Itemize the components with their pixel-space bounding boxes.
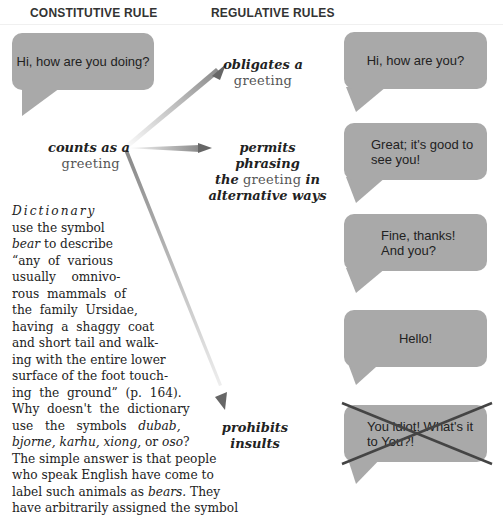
body-paragraph: Dictionary use the symbol bear to descri…	[12, 203, 197, 517]
